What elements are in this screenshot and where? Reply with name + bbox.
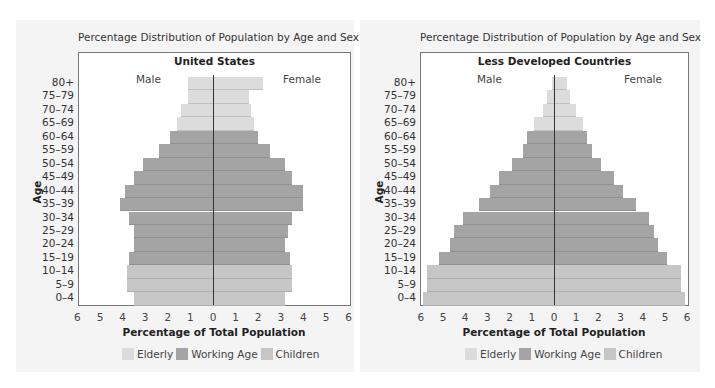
age-label: 60–64 xyxy=(34,130,74,143)
legend-item-working-age: Working Age xyxy=(519,348,600,360)
x-tick-label: 0 xyxy=(547,311,561,323)
x-tick-label: 6 xyxy=(342,311,356,323)
age-label: 20–24 xyxy=(376,237,416,250)
x-tick-label: 4 xyxy=(458,311,472,323)
bar-male xyxy=(527,131,554,144)
age-label: 25–29 xyxy=(34,224,74,237)
x-tick-label: 1 xyxy=(229,311,243,323)
bar-female xyxy=(554,185,623,198)
bar-male xyxy=(134,238,213,251)
age-label: 10–14 xyxy=(34,264,74,277)
age-label: 0–4 xyxy=(34,291,74,304)
bar-male xyxy=(127,265,213,278)
bar-male xyxy=(181,104,213,117)
chart-title-us: Percentage Distribution of Population by… xyxy=(78,31,350,43)
bar-male xyxy=(512,158,554,171)
bar-male xyxy=(423,292,554,305)
x-tick-label: 4 xyxy=(296,311,310,323)
age-label: 75–79 xyxy=(376,89,416,102)
x-tick-label: 6 xyxy=(680,311,694,323)
bar-female xyxy=(554,212,649,225)
age-label: 55–59 xyxy=(376,143,416,156)
bar-male xyxy=(134,225,213,238)
bar-female xyxy=(213,171,292,184)
bar-female xyxy=(554,90,570,103)
x-tick-label: 3 xyxy=(614,311,628,323)
bar-male xyxy=(188,77,213,90)
bar-male xyxy=(454,225,554,238)
bar-female xyxy=(213,77,263,90)
age-label: 50–54 xyxy=(34,157,74,170)
legend-item-elderly: Elderly xyxy=(122,348,173,360)
plot-area-us: United States Male Female xyxy=(78,52,351,306)
bar-male xyxy=(523,144,554,157)
legend-label-children: Children xyxy=(276,348,320,360)
x-tick-label: 3 xyxy=(480,311,494,323)
legend-item-working-age: Working Age xyxy=(176,348,257,360)
bar-male xyxy=(159,144,213,157)
x-tick-label: 5 xyxy=(436,311,450,323)
bar-male xyxy=(143,158,213,171)
legend-label-elderly: Elderly xyxy=(480,348,516,360)
bar-female xyxy=(554,292,685,305)
x-tick-label: 1 xyxy=(183,311,197,323)
bar-female xyxy=(554,238,658,251)
bar-female xyxy=(213,158,285,171)
legend-label-working-age: Working Age xyxy=(191,348,257,360)
age-label: 65–69 xyxy=(376,116,416,129)
age-label: 5–9 xyxy=(376,278,416,291)
age-label: 20–24 xyxy=(34,237,74,250)
x-axis-label-ldc: Percentage of Total Population xyxy=(420,326,688,338)
x-tick-label: 4 xyxy=(636,311,650,323)
legend-label-working-age: Working Age xyxy=(534,348,600,360)
x-tick-label: 3 xyxy=(138,311,152,323)
bar-male xyxy=(490,185,554,198)
x-axis-label-us: Percentage of Total Population xyxy=(78,326,350,338)
legend-ldc: Elderly Working Age Children xyxy=(465,348,665,360)
legend-us: Elderly Working Age Children xyxy=(122,348,322,360)
bar-male xyxy=(534,117,554,130)
age-label: 80+ xyxy=(34,76,74,89)
age-label: 15–19 xyxy=(34,251,74,264)
legend-label-elderly: Elderly xyxy=(137,348,173,360)
legend-swatch-elderly xyxy=(465,348,477,360)
x-tick-label: 1 xyxy=(569,311,583,323)
bar-male xyxy=(125,185,213,198)
legend-label-children: Children xyxy=(619,348,663,360)
zero-axis-line xyxy=(554,75,555,305)
bar-female xyxy=(554,158,601,171)
bar-male xyxy=(439,252,554,265)
bar-male xyxy=(479,198,554,211)
bar-female xyxy=(213,104,251,117)
bar-male xyxy=(177,117,213,130)
age-label: 65–69 xyxy=(34,116,74,129)
age-label: 25–29 xyxy=(376,224,416,237)
age-label: 70–74 xyxy=(34,103,74,116)
bar-female xyxy=(554,279,681,292)
bar-male xyxy=(129,212,213,225)
chart-subtitle-us: United States xyxy=(79,55,350,67)
bar-female xyxy=(554,252,667,265)
bar-male xyxy=(427,279,554,292)
x-tick-label: 2 xyxy=(161,311,175,323)
x-tick-label: 3 xyxy=(274,311,288,323)
male-label: Male xyxy=(136,73,161,85)
male-label: Male xyxy=(477,73,502,85)
bar-male xyxy=(450,238,554,251)
x-tick-label: 2 xyxy=(503,311,517,323)
bar-male xyxy=(463,212,554,225)
bar-female xyxy=(554,171,614,184)
bar-female xyxy=(554,131,587,144)
age-label: 5–9 xyxy=(34,278,74,291)
legend-swatch-children xyxy=(604,348,616,360)
bar-male xyxy=(547,90,554,103)
zero-axis-line xyxy=(213,75,214,305)
age-label: 55–59 xyxy=(34,143,74,156)
bar-male xyxy=(134,292,213,305)
bar-female xyxy=(213,90,249,103)
bar-female xyxy=(213,212,292,225)
x-tick-label: 6 xyxy=(70,311,84,323)
legend-swatch-children xyxy=(261,348,273,360)
bar-female xyxy=(213,252,290,265)
legend-swatch-working-age xyxy=(519,348,531,360)
